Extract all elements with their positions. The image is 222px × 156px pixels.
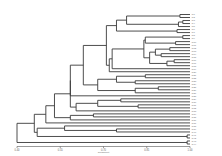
x-tick-label: 0.40 [14, 148, 20, 152]
x-axis-label: Coefficient [98, 151, 110, 154]
x-tick-label: 0.55 [58, 148, 64, 152]
x-axis: 0.400.550.700.851.00 Coefficient [14, 147, 193, 155]
dendrogram-chart: G1G2G3G4G5G6G7G8G9G10G11G12G13G14G15G16G… [0, 0, 222, 156]
leaf-label: G44 [192, 143, 197, 146]
x-tick-label: 0.85 [144, 148, 150, 152]
leaf-labels: G1G2G3G4G5G6G7G8G9G10G11G12G13G14G15G16G… [192, 13, 197, 146]
dendrogram-branches [17, 15, 190, 145]
x-tick-label: 1.00 [187, 148, 193, 152]
